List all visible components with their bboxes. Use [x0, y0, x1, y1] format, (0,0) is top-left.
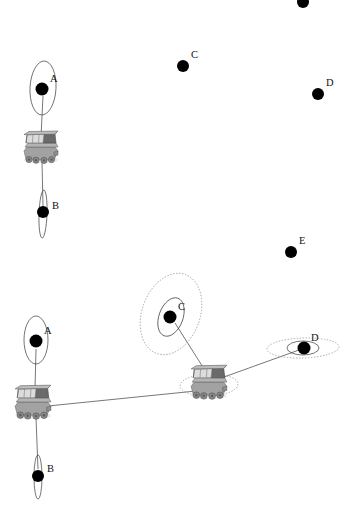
- landmark-label-C: C: [178, 301, 185, 312]
- observation-edge: [175, 323, 206, 372]
- observation-edges-bottom: [35, 323, 299, 469]
- observation-edge: [36, 418, 38, 469]
- landmark-dot-B[interactable]: [37, 206, 49, 218]
- observation-edge: [41, 96, 43, 137]
- landmark-dot-E[interactable]: [285, 246, 297, 258]
- landmark-label-D: D: [311, 332, 319, 343]
- slam-diagram-canvas: A B C D E: [0, 0, 358, 512]
- landmark-dot-C[interactable]: [164, 311, 177, 324]
- robot-bottom-center[interactable]: [191, 365, 227, 399]
- observation-edge: [35, 349, 36, 389]
- panel-initial-state: A B C D E: [24, 0, 334, 258]
- landmark-dot-D[interactable]: [298, 342, 311, 355]
- landmark-label-B: B: [47, 463, 54, 474]
- landmark-dot-B[interactable]: [32, 470, 44, 482]
- landmark-label-C: C: [191, 49, 198, 60]
- observation-edge: [224, 350, 299, 377]
- observation-edge: [42, 162, 43, 206]
- landmark-label-B: B: [52, 200, 59, 211]
- landmark-dot-unlabeled[interactable]: [297, 0, 309, 8]
- robot-top[interactable]: [24, 131, 58, 164]
- landmark-label-E: E: [299, 235, 305, 246]
- landmark-label-A: A: [44, 325, 52, 336]
- landmark-label-A: A: [50, 73, 58, 84]
- robot-bottom-left[interactable]: [15, 385, 51, 419]
- uncertainty-ellipses-bottom: [24, 265, 339, 499]
- observation-edge: [48, 391, 196, 406]
- landmark-dot-C[interactable]: [177, 60, 189, 72]
- landmark-dot-A[interactable]: [30, 335, 43, 348]
- landmark-label-D: D: [326, 77, 334, 88]
- landmarks-bottom: A B C D: [30, 301, 320, 482]
- scene-svg: A B C D E: [0, 0, 358, 512]
- landmark-dot-D[interactable]: [312, 88, 324, 100]
- panel-after-motion-state: A B C D: [15, 265, 339, 499]
- landmark-dot-A[interactable]: [36, 83, 49, 96]
- landmarks-top: A B C D E: [36, 0, 335, 258]
